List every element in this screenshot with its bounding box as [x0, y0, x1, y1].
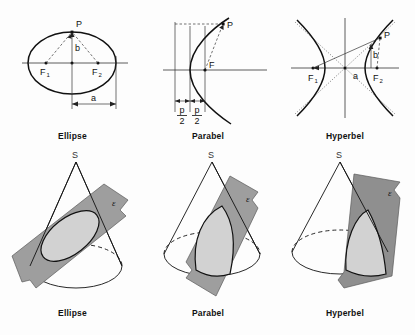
- parabola-point-p-marker: [222, 23, 225, 26]
- parabola-dim-arrow-1: [175, 99, 180, 103]
- hyperbola-label-f2: F: [373, 73, 379, 83]
- parabola-dim-arrow-2a: [185, 99, 190, 103]
- caption-hyperbola-3d: Hyperbel: [300, 308, 390, 318]
- ellipse-label-b: b: [75, 43, 80, 53]
- hyperbola-cone-apex-label: S: [336, 150, 342, 160]
- hyperbola-label-f2-subscript: 2: [380, 78, 384, 84]
- ellipse-dim-arrow-left: [72, 102, 78, 107]
- ellipse-label-f1-subscript: 1: [47, 72, 51, 78]
- parabola-label-p-over-2-right-numerator: p: [195, 105, 200, 115]
- ellipse-point-p-marker: [71, 31, 74, 34]
- ellipse-label-p: P: [76, 19, 82, 29]
- caption-hyperbola-2d: Hyperbel: [300, 131, 390, 141]
- hyperbola-point-p-marker: [379, 37, 382, 40]
- parabola-dim-arrow-2b: [190, 99, 195, 103]
- figure-ellipse-3d: S ε: [8, 148, 144, 303]
- parabola-label-p-over-2-left-numerator: p: [180, 105, 185, 115]
- ellipse-cone-apex-label: S: [72, 150, 78, 160]
- hyperbola-center-dot: [344, 67, 347, 70]
- hyperbola-label-b: b: [373, 50, 378, 60]
- figure-hyperbola-2d: P b a F 1 F 2: [283, 8, 408, 126]
- figure-parabola-2d: P F p 2 p 2: [155, 8, 275, 126]
- caption-parabola-2d: Parabel: [163, 131, 253, 141]
- caption-ellipse-2d: Ellipse: [30, 131, 115, 141]
- hyperbola-plane-label: ε: [388, 188, 392, 198]
- ellipse-dim-arrow-right: [110, 102, 116, 107]
- ellipse-label-f1: F: [40, 67, 46, 77]
- parabola-focus-dot: [203, 68, 206, 71]
- parabola-cone-apex-label: S: [208, 150, 214, 160]
- ellipse-label-f2-subscript: 2: [99, 72, 103, 78]
- parabola-radius-arrowhead: [219, 25, 223, 30]
- parabola-section-curve: [195, 206, 233, 276]
- parabola-label-p-over-2-left-denominator: 2: [180, 116, 185, 126]
- parabola-label-p-over-2-right-denominator: 2: [195, 116, 200, 126]
- hyperbola-label-f1: F: [308, 73, 314, 83]
- caption-ellipse-3d: Ellipse: [30, 308, 115, 318]
- caption-parabola-3d: Parabel: [163, 308, 253, 318]
- parabola-label-p: P: [227, 20, 233, 30]
- figure-ellipse-2d: P b F 1 F 2 a: [10, 8, 135, 126]
- parabola-plane-label: ε: [246, 194, 250, 204]
- ellipse-plane-label: ε: [112, 198, 116, 208]
- figure-parabola-3d: S ε: [148, 148, 280, 303]
- hyperbola-label-a: a: [353, 71, 358, 81]
- hyperbola-label-p: P: [384, 30, 390, 40]
- ellipse-label-a: a: [91, 93, 96, 103]
- hyperbola-focal-radius-1: [313, 38, 380, 68]
- parabola-label-f: F: [209, 60, 215, 70]
- hyperbola-cone-side-left: [292, 162, 340, 252]
- hyperbola-label-f1-subscript: 1: [315, 78, 319, 84]
- ellipse-label-f2: F: [92, 67, 98, 77]
- figure-hyperbola-3d: S ε: [282, 148, 412, 303]
